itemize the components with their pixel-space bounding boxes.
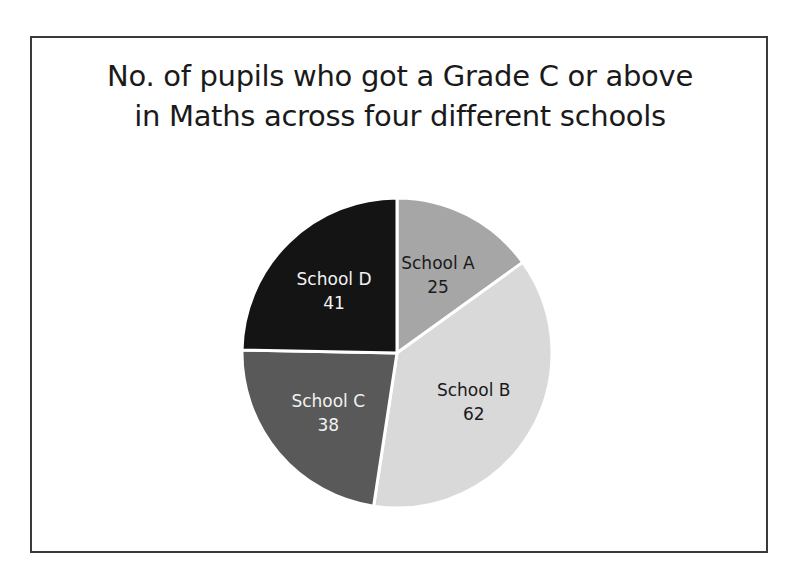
pie-chart: School A25School B62School C38School D41 — [0, 0, 800, 583]
